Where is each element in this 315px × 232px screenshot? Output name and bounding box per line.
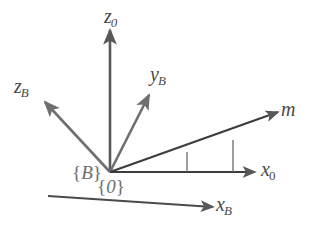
body-frame-letter: B xyxy=(81,162,93,183)
y-body-axis-label: yB xyxy=(150,64,167,84)
z-body-label-sub: B xyxy=(21,85,29,100)
x-body-axis-line xyxy=(48,196,213,207)
x-zero-label-sub: 0 xyxy=(269,168,276,183)
m-label-base: m xyxy=(281,98,295,120)
inertial-frame-letter: 0 xyxy=(106,176,116,197)
inertial-frame-label: {0} xyxy=(97,177,125,196)
brace-open-B: { xyxy=(72,162,81,183)
y-body-label-sub: B xyxy=(158,73,166,88)
m-vector-label: m xyxy=(281,99,295,119)
brace-open-0: { xyxy=(97,176,106,197)
diagram-canvas xyxy=(0,0,315,232)
x-body-label-sub: B xyxy=(224,203,232,218)
x-zero-axis-label: x0 xyxy=(261,159,276,179)
z-body-axis-label: zB xyxy=(14,76,30,96)
vector-diagram-figure: z0 zB yB m x0 xB {B} {0} xyxy=(0,0,315,232)
z-zero-axis-label: z0 xyxy=(104,6,118,26)
projection-lines-group xyxy=(187,140,233,172)
x-body-axis-label: xB xyxy=(216,194,233,214)
z-zero-label-sub: 0 xyxy=(111,15,118,30)
brace-close-0: } xyxy=(116,176,125,197)
